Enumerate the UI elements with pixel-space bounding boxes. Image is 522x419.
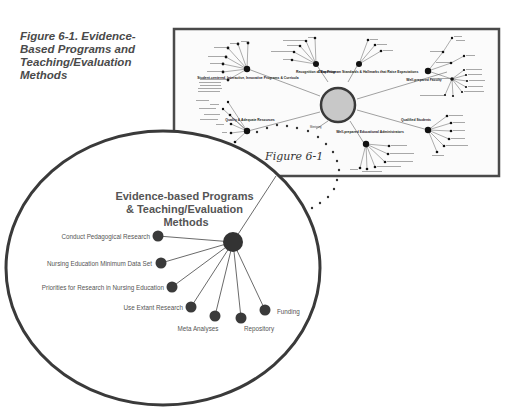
leaf-node (156, 258, 167, 269)
zoom-title-line-2: & Teaching/Evaluation (126, 203, 243, 215)
zoom-hub-node (223, 232, 243, 252)
leaf-label: Repository (244, 325, 275, 333)
zoom-title-line-3: Methods (163, 216, 208, 228)
hub-label: Quality & Adequate Resources (225, 118, 275, 122)
leaf-label: Priorities for Research in Nursing Educa… (42, 284, 165, 292)
leaf-conduct-pedagogical-research: Conduct Pedagogical Research (61, 231, 163, 242)
diagram-canvas: Student-centered, Interactive, Innovativ… (0, 0, 522, 419)
leaf-priorities-for-research: Priorities for Research in Nursing Educa… (42, 282, 178, 293)
dotted-link-label: Mentoring (310, 125, 322, 129)
hub-node (363, 141, 369, 147)
leaf-node (236, 313, 247, 324)
leaf-label: Conduct Pedagogical Research (61, 233, 150, 241)
hub-label: Clear Program Standards & Hallmarks that… (318, 70, 419, 74)
center-node (321, 88, 355, 122)
zoom-title-line-1: Evidence-based Programs (115, 190, 253, 202)
leaf-nursing-education-minimum-data-set: Nursing Education Minimum Data Set (47, 258, 167, 269)
zoom-diagram: Evidence-based Programs & Teaching/Evalu… (6, 131, 320, 405)
hub-label: Qualified Students (401, 118, 431, 122)
leaf-node (210, 311, 221, 322)
leaf-label: Use Extant Research (124, 304, 184, 311)
leaf-label: Funding (277, 308, 300, 316)
leaf-node (153, 231, 164, 242)
leaf-node (260, 305, 271, 316)
hub-node (425, 68, 431, 74)
leaf-node (167, 282, 178, 293)
hub-node (244, 128, 250, 134)
hub-node (356, 61, 362, 67)
hub-node (425, 127, 431, 133)
hub-node (313, 61, 319, 67)
leaf-label: Nursing Education Minimum Data Set (47, 260, 152, 268)
leaf-node (186, 302, 197, 313)
figure-reference-label: Figure 6-1 (264, 150, 323, 163)
leaf-label: Meta Analyses (178, 325, 219, 333)
hub-node (244, 66, 250, 72)
hub-label: Well-prepared Educational Administrators (336, 130, 404, 134)
